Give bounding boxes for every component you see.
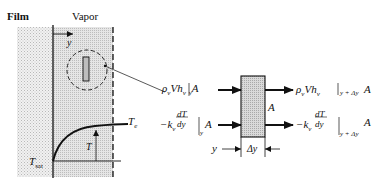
conduction-out-area: A xyxy=(364,117,371,128)
conduction-in-equation: −kv xyxy=(160,119,175,133)
delta-y-label: Δy xyxy=(247,144,257,154)
vapor-region xyxy=(53,27,113,177)
convection-out-equation: ρvVhv xyxy=(296,84,320,98)
conduction-in-eval: y xyxy=(200,130,203,137)
vapor-label: Vapor xyxy=(72,11,98,22)
y-axis-label: y xyxy=(67,38,71,48)
conduction-out-eval: y + Δy xyxy=(340,131,359,138)
film-label: Film xyxy=(7,11,29,22)
convection-out-area: A xyxy=(364,84,371,95)
t-sat-label: Tsat xyxy=(29,156,43,170)
conduction-out-dT: dT xyxy=(315,110,325,119)
t-e-label: Te xyxy=(128,116,137,130)
control-volume-element xyxy=(83,57,89,81)
conduction-in-dT: dT xyxy=(177,110,187,119)
leader-line xyxy=(105,66,165,92)
t-label: T xyxy=(86,142,92,152)
convection-out-eval: y + Δy xyxy=(340,90,359,97)
conduction-out-dy: dy xyxy=(315,120,324,129)
convection-in-equation: ρvVhvyA xyxy=(162,83,199,97)
conduction-in-dy: dy xyxy=(177,120,186,129)
conduction-out-equation: −kv xyxy=(296,119,311,133)
y-position-label: y xyxy=(212,143,217,154)
conduction-in-area: A xyxy=(205,119,212,130)
area-label: A xyxy=(268,102,275,113)
enlarged-element-block xyxy=(241,76,265,137)
